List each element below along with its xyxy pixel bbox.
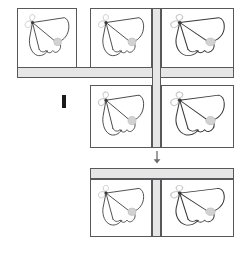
moth-tile-result-left <box>90 179 152 237</box>
horizontal-seam-bar-result <box>90 168 234 179</box>
wing-spot <box>128 208 136 215</box>
figure-canvas: I ↓ <box>0 0 241 256</box>
result-group <box>0 0 241 256</box>
moth-body-node <box>178 192 182 195</box>
moth-drawing <box>91 180 151 236</box>
moth-drawing <box>162 180 233 236</box>
moth-tile-result-right <box>161 179 234 237</box>
moth-body-node <box>104 192 107 195</box>
wing-spot <box>206 208 215 215</box>
vertical-seam-bar-result <box>152 179 161 237</box>
